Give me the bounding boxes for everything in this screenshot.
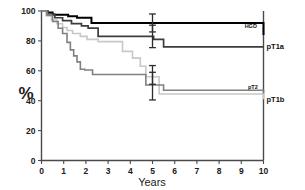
x-tick-label: 7: [195, 166, 200, 176]
y-tick-label: 20: [26, 126, 36, 136]
y-tick-label: 80: [26, 36, 36, 46]
series-label-pt1a: pT1a: [267, 42, 285, 51]
series-label-pt1b: pT1b: [267, 95, 285, 104]
y-tick-label: 100: [21, 6, 35, 16]
series-label-hgd: HGD: [245, 23, 257, 29]
x-axis-title: Years: [138, 176, 166, 188]
y-tick-label: 0: [31, 156, 36, 166]
series-label-pt2: pT2: [248, 84, 258, 90]
x-tick-label: 1: [61, 166, 66, 176]
x-tick-label: 3: [106, 166, 111, 176]
kaplan-meier-plot: 020406080100012345678910 HGDpT1apT1bpT2 …: [0, 0, 305, 190]
series-label-layer: HGDpT1apT1bpT2: [245, 23, 285, 104]
y-axis-title: %: [18, 84, 33, 103]
errorbar-layer: [149, 14, 156, 100]
x-tick-label: 9: [239, 166, 244, 176]
y-tick-label: 60: [26, 66, 36, 76]
x-tick-label: 0: [39, 166, 44, 176]
survival-chart: 020406080100012345678910 HGDpT1apT1bpT2 …: [0, 0, 305, 190]
x-tick-label: 6: [172, 166, 177, 176]
x-tick-label: 4: [128, 166, 133, 176]
x-tick-label: 2: [84, 166, 89, 176]
x-tick-label: 8: [217, 166, 222, 176]
x-tick-label: 5: [150, 166, 155, 176]
x-tick-label: 10: [259, 166, 269, 176]
